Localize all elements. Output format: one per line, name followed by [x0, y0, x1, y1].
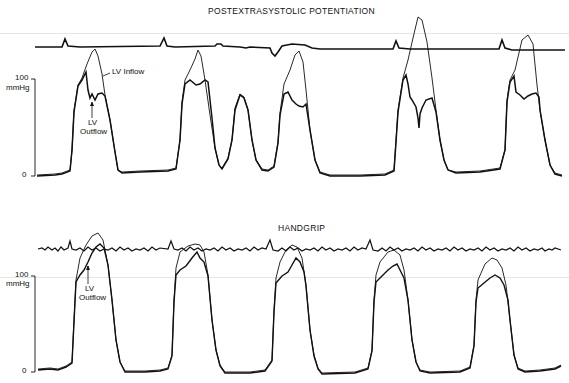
lv-outflow-arrowhead-bottom: [87, 266, 90, 270]
bottom-ecg-trace: [38, 240, 561, 251]
top-lv-inflow-trace: [37, 17, 562, 175]
top-lv-outflow-trace: [37, 72, 562, 176]
bottom-lv-inflow-trace: [38, 233, 561, 373]
top-y-axis: [31, 79, 35, 176]
lv-inflow-arrow: [103, 73, 110, 76]
pressure-tracings: [0, 0, 569, 383]
bottom-y-axis: [31, 276, 35, 372]
bottom-lv-outflow-trace: [38, 244, 561, 374]
lv-outflow-arrowhead-top: [91, 102, 94, 106]
